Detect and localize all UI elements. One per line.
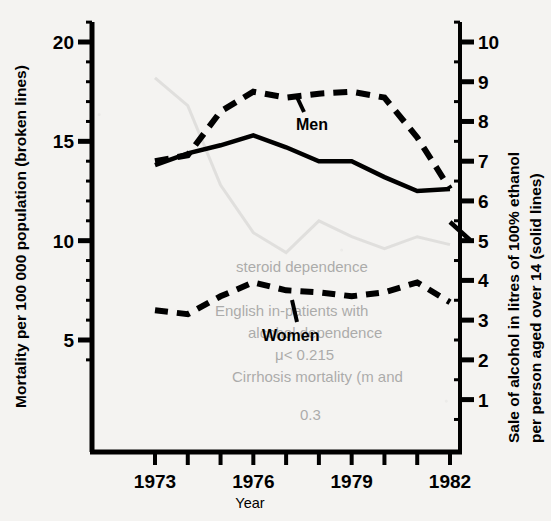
right-tick-label: 6 (478, 191, 489, 212)
x-axis-tick-labels: 1973197619791982 (134, 471, 471, 492)
women-label: Women (262, 327, 319, 344)
right-tick-label: 3 (478, 310, 489, 331)
faint-background-series (155, 78, 450, 253)
right-tick-label: 5 (478, 231, 489, 252)
bleed-line-5: Cirrhosis mortality (m and (232, 368, 403, 385)
x-tick-label: 1982 (429, 471, 471, 492)
x-tick-label: 1979 (331, 471, 373, 492)
right-tick-label: 8 (478, 111, 489, 132)
right-tick-label: 1 (478, 390, 489, 411)
bleed-line-1: steroid dependence (236, 258, 368, 275)
right-tick-label: 7 (478, 151, 489, 172)
right-axis-tick-labels: 12345678910 (478, 32, 499, 411)
right-axis-title-line2: per person aged over 14 (solid lines) (527, 173, 544, 443)
right-tick-label: 2 (478, 350, 489, 371)
bleed-line-6: 0.3 (300, 406, 321, 423)
left-tick-label: 15 (53, 131, 75, 152)
right-axis-title-line1: Sale of alcohol in litres of 100% ethano… (505, 152, 522, 443)
right-axis-ticks (454, 22, 474, 419)
x-tick-label: 1976 (232, 471, 274, 492)
plot-frame (90, 22, 462, 452)
left-axis-tick-labels: 5101520 (53, 32, 75, 351)
men-label: Men (296, 116, 328, 133)
bleed-line-4: μ< 0.215 (275, 346, 334, 363)
chart-root: steroid dependence English in-patients w… (0, 0, 551, 521)
x-axis-title: Year (235, 495, 264, 511)
dual-axis-line-chart: steroid dependence English in-patients w… (0, 0, 551, 521)
right-tick-label: 10 (478, 32, 499, 53)
left-axis-title: Mortality per 100 000 population (broken… (12, 65, 29, 408)
left-tick-label: 20 (53, 32, 74, 53)
left-tick-label: 10 (53, 231, 74, 252)
right-tick-label: 4 (478, 270, 489, 291)
series-label-men: Men (296, 95, 328, 133)
left-tick-label: 5 (63, 330, 74, 351)
x-tick-label: 1973 (134, 471, 176, 492)
right-tick-label: 9 (478, 72, 489, 93)
